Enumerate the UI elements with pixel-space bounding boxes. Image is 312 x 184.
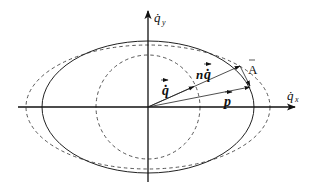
p-label: p <box>223 92 232 109</box>
vector-q-dot <box>148 87 194 108</box>
n-q-dot-label: n q̇ <box>196 64 211 82</box>
svg-text:q̇: q̇ <box>162 83 169 98</box>
q-dot-label: q̇ <box>161 80 169 98</box>
svg-text:q̇: q̇ <box>287 88 294 103</box>
svg-text:x: x <box>294 95 299 104</box>
svg-text:n: n <box>196 67 203 82</box>
svg-text:q̇: q̇ <box>204 67 211 82</box>
A-label: A <box>248 60 258 77</box>
x-axis-label: q̇ x <box>287 88 299 104</box>
svg-text:q̇: q̇ <box>154 10 161 25</box>
y-axis-label: q̇ y <box>154 10 166 27</box>
ellipse-vector-diagram: q̇ y q̇ x q̇ n q̇ p A <box>0 0 312 184</box>
svg-text:p: p <box>223 94 231 109</box>
svg-text:A: A <box>248 62 258 77</box>
svg-text:y: y <box>161 18 166 27</box>
